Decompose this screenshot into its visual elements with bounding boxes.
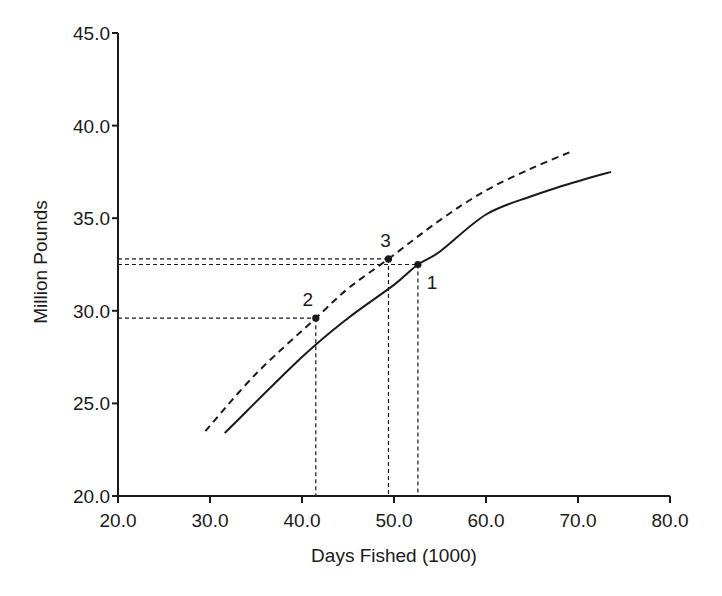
x-tick-label: 60.0 bbox=[468, 510, 505, 531]
y-tick-label: 35.0 bbox=[73, 208, 110, 229]
x-tick-label: 20.0 bbox=[100, 510, 137, 531]
y-tick-label: 45.0 bbox=[73, 23, 110, 44]
y-axis-title: Million Pounds bbox=[30, 200, 51, 324]
curves bbox=[205, 152, 611, 434]
x-tick-label: 30.0 bbox=[192, 510, 229, 531]
y-tick-label: 25.0 bbox=[73, 393, 110, 414]
x-tick-label: 70.0 bbox=[560, 510, 597, 531]
point-label-2: 2 bbox=[303, 289, 314, 310]
y-tick-label: 40.0 bbox=[73, 116, 110, 137]
point-label-1: 1 bbox=[427, 272, 438, 293]
point-marker-3 bbox=[385, 255, 392, 262]
point-marker-2 bbox=[312, 315, 319, 322]
dashed-curve bbox=[205, 152, 571, 432]
annotated-points: 123 bbox=[303, 230, 438, 322]
x-axis-ticks: 20.030.040.050.060.070.080.0 bbox=[100, 496, 689, 531]
reference-drop-lines bbox=[118, 259, 418, 496]
x-tick-label: 50.0 bbox=[376, 510, 413, 531]
x-tick-label: 40.0 bbox=[284, 510, 321, 531]
point-label-3: 3 bbox=[380, 230, 391, 251]
y-axis-ticks: 20.025.030.035.040.045.0 bbox=[73, 23, 118, 507]
axes: 20.025.030.035.040.045.0 20.030.040.050.… bbox=[73, 23, 688, 531]
chart: 20.025.030.035.040.045.0 20.030.040.050.… bbox=[0, 0, 722, 596]
y-tick-label: 30.0 bbox=[73, 301, 110, 322]
x-tick-label: 80.0 bbox=[652, 510, 689, 531]
y-tick-label: 20.0 bbox=[73, 486, 110, 507]
x-axis-title: Days Fished (1000) bbox=[311, 545, 477, 566]
point-marker-1 bbox=[414, 261, 421, 268]
